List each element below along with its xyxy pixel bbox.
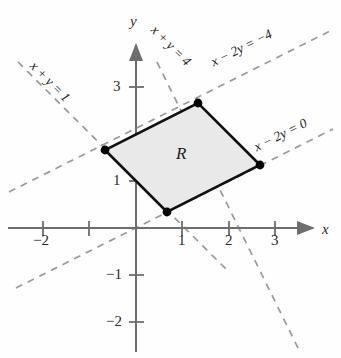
x-tick-label-3: 3 [271,232,279,249]
y-tick-label-1: 1 [113,172,121,189]
x-axis-label: x [322,221,329,238]
vertex-bottom [163,208,172,217]
y-tick-label-3: 3 [113,78,121,95]
vertex-top [194,99,203,108]
y-tick-label--1: −1 [106,266,122,283]
y-tick-label--2: −2 [106,313,122,330]
region-label-R: R [176,144,186,164]
vertex-left [101,146,110,155]
y-axis-label: y [130,13,137,30]
x-tick-label-1: 1 [178,232,186,249]
x-tick-label--2: −2 [33,232,49,249]
math-figure: −2 1 2 3 3 1 −1 −2 x y R x + y = 1 x + y… [0,0,341,358]
vertex-right [256,161,265,170]
x-tick-label-2: 2 [225,232,233,249]
